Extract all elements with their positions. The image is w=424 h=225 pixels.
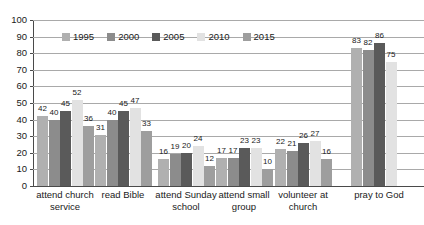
bar[interactable]: 27 [310, 141, 321, 186]
bar[interactable]: 45 [60, 111, 71, 186]
bar[interactable]: 75 [386, 62, 397, 187]
legend-swatch-icon [152, 33, 160, 41]
x-axis-category-label: volunteer at church [270, 189, 336, 212]
bar-value-label: 82 [364, 39, 373, 47]
bar[interactable]: 40 [107, 120, 118, 186]
bar[interactable]: 20 [181, 153, 192, 186]
legend-swatch-icon [107, 33, 115, 41]
bar[interactable]: 12 [204, 166, 215, 186]
bar[interactable]: 24 [193, 146, 204, 186]
bar-value-label: 20 [182, 142, 191, 150]
bar[interactable]: 52 [72, 100, 83, 186]
bar-value-label: 33 [142, 120, 151, 128]
y-tick-label: 70 [0, 65, 27, 75]
bar[interactable]: 26 [298, 143, 309, 186]
bar[interactable]: 21 [287, 151, 298, 186]
legend-swatch-icon [197, 33, 205, 41]
bar-value-label: 31 [96, 124, 105, 132]
legend-label: 1995 [73, 32, 94, 42]
y-tick-label: 80 [0, 48, 27, 58]
bar[interactable]: 83 [351, 48, 362, 186]
bar[interactable]: 22 [275, 149, 286, 186]
bar-value-label: 19 [171, 143, 180, 151]
bar-value-label: 10 [263, 158, 272, 166]
bar[interactable]: 16 [158, 159, 169, 186]
bar-value-label: 47 [131, 97, 140, 105]
bar[interactable]: 47 [130, 108, 141, 186]
y-axis: 1009080706050403020100 [0, 0, 31, 225]
bar-group-bars: 1619202412 [158, 20, 215, 186]
bar[interactable]: 17 [216, 158, 227, 186]
bar-value-label: 83 [352, 37, 361, 45]
bar[interactable]: 33 [141, 131, 152, 186]
bar[interactable]: 82 [363, 50, 374, 186]
bar-value-label: 52 [73, 89, 82, 97]
bar-group-bars: 3140454733 [95, 20, 152, 186]
bar-value-label: 16 [159, 148, 168, 156]
bar[interactable]: 86 [374, 43, 385, 186]
bar[interactable]: 40 [49, 120, 60, 186]
bar-value-label: 23 [240, 137, 249, 145]
legend-label: 2005 [163, 32, 184, 42]
bar-value-label: 75 [387, 51, 396, 59]
legend-item[interactable]: 2015 [243, 32, 275, 42]
bar-value-label: 40 [108, 109, 117, 117]
bar[interactable]: 23 [251, 148, 262, 186]
bar-value-label: 12 [205, 155, 214, 163]
bar-group-bars: 83828675 [351, 20, 397, 186]
y-tick-label: 90 [0, 32, 27, 42]
y-tick-label: 40 [0, 115, 27, 125]
legend-swatch-icon [62, 33, 70, 41]
bar[interactable]: 45 [118, 111, 129, 186]
x-axis-category-label: read Bible [92, 189, 154, 201]
legend-label: 2010 [208, 32, 229, 42]
bar[interactable]: 42 [37, 116, 48, 186]
legend-item[interactable]: 2000 [107, 32, 139, 42]
bar-value-label: 17 [217, 147, 226, 155]
bar[interactable]: 23 [239, 148, 250, 186]
legend-label: 2000 [118, 32, 139, 42]
legend-item[interactable]: 2005 [152, 32, 184, 42]
bar[interactable]: 16 [321, 159, 332, 186]
x-axis-category-label: attend small group [211, 189, 277, 212]
x-axis-labels: attend church serviceread Bibleattend Su… [33, 189, 424, 223]
y-tick-label: 30 [0, 131, 27, 141]
bar-group-bars: 1717232310 [216, 20, 273, 186]
bar-value-label: 16 [322, 148, 331, 156]
x-axis-category-label: attend church service [29, 189, 101, 212]
bar-value-label: 42 [38, 105, 47, 113]
bar[interactable]: 31 [95, 135, 106, 186]
plot-area: 4240455236314045473316192024121717232310… [33, 20, 424, 186]
bar-value-label: 22 [276, 138, 285, 146]
y-tick-label: 20 [0, 148, 27, 158]
bar-chart: 1009080706050403020100 42404552363140454… [0, 0, 424, 225]
y-tick-label: 50 [0, 98, 27, 108]
bar-value-label: 45 [61, 100, 70, 108]
y-tick-label: 100 [0, 15, 27, 25]
legend-label: 2015 [254, 32, 275, 42]
legend: 19952000200520102015 [62, 32, 275, 42]
bar-group-bars: 4240455236 [37, 20, 94, 186]
bar-value-label: 27 [311, 130, 320, 138]
bar-value-label: 40 [50, 109, 59, 117]
x-axis-category-label: pray to God [348, 189, 410, 201]
y-tick-label: 10 [0, 164, 27, 174]
bar[interactable]: 36 [83, 126, 94, 186]
legend-item[interactable]: 1995 [62, 32, 94, 42]
x-axis-baseline [33, 186, 424, 187]
bar[interactable]: 10 [262, 169, 273, 186]
bar-value-label: 86 [375, 32, 384, 40]
bar[interactable]: 19 [170, 154, 181, 186]
bar-group-bars: 2221262716 [275, 20, 332, 186]
bar-value-label: 17 [229, 147, 238, 155]
bar[interactable]: 17 [228, 158, 239, 186]
legend-item[interactable]: 2010 [197, 32, 229, 42]
bar-value-label: 36 [84, 115, 93, 123]
bar-value-label: 24 [194, 135, 203, 143]
bar-value-label: 45 [119, 100, 128, 108]
bar-value-label: 26 [299, 132, 308, 140]
bar-value-label: 21 [288, 140, 297, 148]
y-tick-label: 0 [0, 181, 27, 191]
legend-swatch-icon [243, 33, 251, 41]
y-tick-label: 60 [0, 81, 27, 91]
